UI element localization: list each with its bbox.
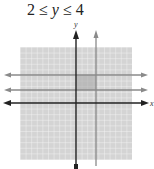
x-axis-right-arrow-icon [141, 100, 149, 106]
y-axis-label: y [73, 20, 78, 29]
x-axis-label: x [149, 99, 154, 108]
boundary-y4-left-arrow-icon [4, 73, 11, 78]
shaded-region [76, 75, 96, 90]
x-axis-left-arrow-icon [3, 100, 11, 106]
boundary-y4-right-arrow-icon [141, 73, 148, 78]
boundary-y2-right-arrow-icon [141, 88, 148, 93]
y-axis-bottom-cap [74, 164, 78, 169]
coordinate-graph: y x [0, 0, 154, 169]
y-axis-up-arrow-icon [73, 30, 79, 39]
vertical-reference-arrow-icon [94, 30, 99, 38]
boundary-y2-left-arrow-icon [4, 88, 11, 93]
